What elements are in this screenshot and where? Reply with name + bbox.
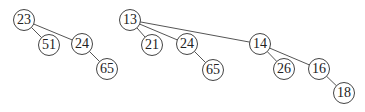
tree-node-65: 65: [96, 58, 118, 80]
tree-node-26: 26: [273, 58, 295, 80]
tree-node-24: 24: [71, 33, 93, 55]
tree-node-21: 21: [141, 34, 163, 56]
edge-layer: [0, 0, 365, 112]
tree-node-51: 51: [38, 34, 60, 56]
tree-node-14: 14: [249, 33, 271, 55]
tree-node-24: 24: [176, 33, 198, 55]
tree-node-16: 16: [308, 58, 330, 80]
tree-node-23-root: 23: [13, 9, 35, 31]
tree-node-13-root: 13: [119, 9, 141, 31]
tree-node-18: 18: [333, 82, 355, 104]
tree-diagram: 23 51 24 65 13 21 24 65 14 26 16 18: [0, 0, 365, 112]
tree-node-65: 65: [202, 59, 224, 81]
